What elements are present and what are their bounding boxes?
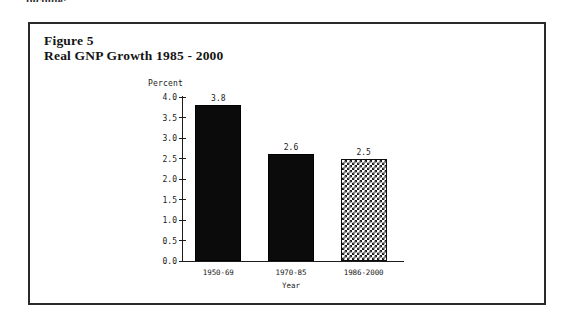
y-axis-tick-mark — [179, 220, 186, 221]
plot-area: 0.00.51.01.52.02.53.03.54.03.82.62.5 — [182, 97, 400, 261]
x-axis-tick-label: 1986-2000 — [344, 268, 384, 277]
bar-value-label: 3.8 — [211, 94, 225, 103]
y-axis-tick-mark — [179, 179, 186, 180]
y-axis-tick-mark — [179, 117, 186, 118]
y-axis-tick-mark — [179, 158, 186, 159]
x-axis-tick-label: 1950-69 — [203, 268, 234, 277]
x-axis-line — [182, 261, 404, 262]
y-axis-title: Percent — [148, 79, 183, 88]
bar-1986-2000: 2.5 — [341, 159, 387, 262]
bar-value-label: 2.6 — [284, 143, 298, 152]
y-axis-tick-mark — [179, 261, 186, 262]
x-axis-title: Year — [282, 281, 300, 290]
y-axis-tick-label: 3.5 — [163, 113, 177, 122]
bar-1970-85: 2.6 — [268, 154, 314, 261]
y-axis-tick-label: 2.5 — [163, 154, 177, 163]
bar-value-label: 2.5 — [356, 148, 370, 157]
y-axis-tick-mark — [179, 199, 186, 200]
y-axis-tick-mark — [179, 138, 186, 139]
y-axis-tick-label: 1.5 — [163, 195, 177, 204]
y-axis-tick-label: 1.0 — [163, 216, 177, 225]
bar-1950-69: 3.8 — [195, 105, 241, 261]
y-axis-tick-mark — [179, 240, 186, 241]
y-axis-tick-label: 4.0 — [163, 93, 177, 102]
y-axis-tick-label: 0.0 — [163, 257, 177, 266]
y-axis-tick-label: 2.0 — [163, 175, 177, 184]
y-axis-tick-label: 3.0 — [163, 134, 177, 143]
y-axis-tick-label: 0.5 — [163, 236, 177, 245]
bar-chart: Percent 0.00.51.01.52.02.53.03.54.03.82.… — [0, 0, 569, 324]
x-axis-tick-label: 1970-85 — [276, 268, 307, 277]
y-axis-tick-mark — [179, 97, 186, 98]
